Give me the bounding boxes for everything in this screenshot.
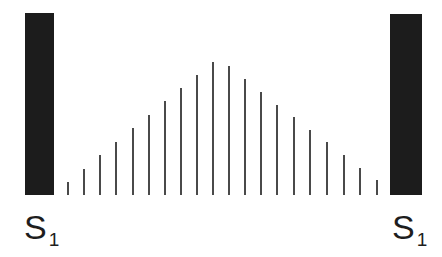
slit-label-subscript: 1 — [49, 229, 60, 250]
slit-label-letter: S — [392, 208, 415, 246]
intensity-line — [326, 142, 328, 195]
diagram-canvas: S1S1 — [0, 0, 442, 257]
intensity-line — [164, 101, 166, 195]
intensity-line — [228, 66, 230, 195]
right-slit-label: S1 — [392, 210, 427, 244]
intensity-line — [83, 169, 85, 195]
intensity-line — [212, 62, 214, 195]
intensity-line — [132, 128, 134, 195]
intensity-line — [343, 155, 345, 195]
intensity-line — [276, 105, 278, 195]
intensity-line — [67, 182, 69, 195]
intensity-line — [244, 79, 246, 195]
left-slit-label: S1 — [24, 210, 59, 244]
slit-label-subscript: 1 — [417, 229, 428, 250]
right-slit-bar — [390, 14, 422, 195]
left-slit-bar — [25, 13, 54, 195]
intensity-line — [359, 168, 361, 195]
intensity-line — [196, 75, 198, 195]
intensity-line — [148, 115, 150, 195]
intensity-line — [99, 155, 101, 195]
intensity-line — [260, 92, 262, 195]
intensity-line — [376, 180, 378, 195]
intensity-line — [115, 142, 117, 195]
intensity-line — [180, 88, 182, 195]
intensity-line — [293, 117, 295, 195]
slit-label-letter: S — [24, 208, 47, 246]
intensity-line — [309, 130, 311, 195]
